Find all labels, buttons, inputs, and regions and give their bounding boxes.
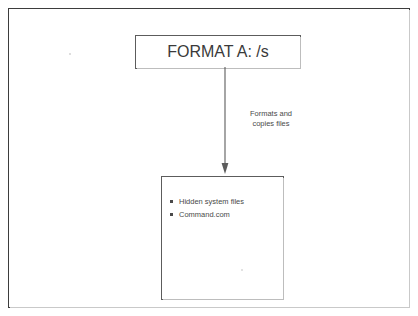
- arrow-annotation-line-1: Formats and: [228, 109, 314, 119]
- output-item-list: Hidden system files Command.com: [162, 195, 283, 221]
- command-box-label: FORMAT A: /s: [167, 43, 269, 61]
- scanned-page: FORMAT A: /s Formats and copies files Hi…: [0, 0, 418, 316]
- list-item: Hidden system files: [170, 195, 283, 208]
- bullet-square-icon: [170, 200, 173, 203]
- arrow-annotation: Formats and copies files: [228, 109, 314, 129]
- output-box: Hidden system files Command.com: [161, 176, 284, 300]
- output-item-label: Hidden system files: [179, 197, 244, 206]
- page-border-frame: FORMAT A: /s Formats and copies files Hi…: [8, 8, 410, 308]
- bullet-square-icon: [170, 213, 173, 216]
- arrow-annotation-line-2: copies files: [228, 119, 314, 129]
- output-item-label: Command.com: [179, 210, 230, 219]
- list-item: Command.com: [170, 208, 283, 221]
- scan-artifact-speck: [69, 53, 71, 55]
- command-box: FORMAT A: /s: [135, 35, 301, 69]
